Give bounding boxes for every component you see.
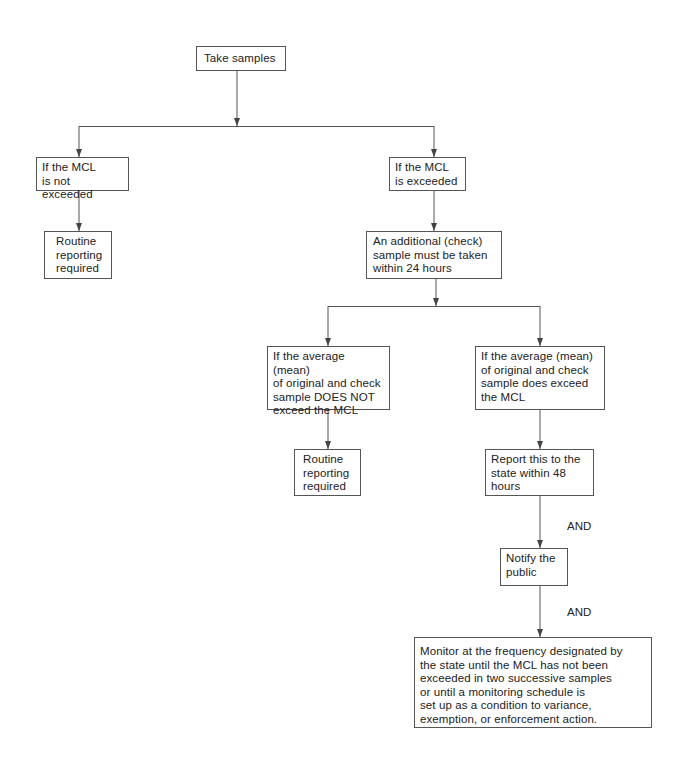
node-take-samples: Take samples — [196, 46, 286, 71]
and-label-2: AND — [567, 606, 591, 619]
node-average-not-exceed: If the average (mean) of original and ch… — [267, 346, 390, 410]
node-report-to-state: Report this to the state within 48 hours — [485, 449, 594, 496]
and-label-1: AND — [567, 520, 591, 533]
node-notify-public: Notify the public — [500, 548, 568, 586]
node-routine-reporting-1: Routine reporting required — [44, 231, 112, 279]
node-mcl-exceeded: If the MCL is exceeded — [389, 157, 466, 191]
node-routine-reporting-2: Routine reporting required — [294, 449, 361, 496]
node-average-exceed: If the average (mean) of original and ch… — [475, 346, 605, 410]
node-check-sample: An additional (check) sample must be tak… — [366, 231, 502, 279]
node-monitor: Monitor at the frequency designated by t… — [414, 637, 652, 728]
node-mcl-not-exceeded: If the MCL is not exceeded — [36, 157, 129, 191]
